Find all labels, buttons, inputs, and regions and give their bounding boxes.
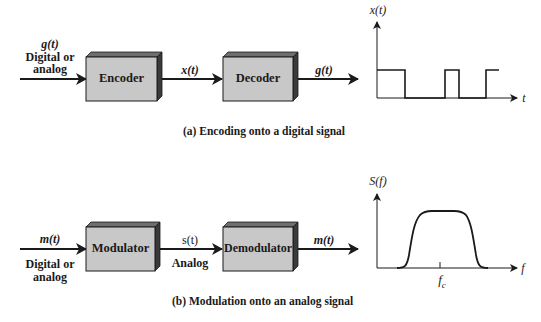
input-signal-label-b: m(t) xyxy=(30,233,70,246)
caption-a: (a) Encoding onto a digital signal xyxy=(183,125,345,137)
output-signal-label-a: g(t) xyxy=(304,64,344,77)
spectrum-plot xyxy=(377,194,517,268)
decoder-block: Decoder xyxy=(223,72,293,85)
plot-b-ylabel: S(f) xyxy=(363,175,393,188)
encoder-block: Encoder xyxy=(86,72,157,85)
spectrum-curve xyxy=(397,211,488,268)
fc-tick-label-sub: c xyxy=(442,280,446,290)
plot-a-xlabel: t xyxy=(519,92,529,105)
modulator-block: Modulator xyxy=(86,242,155,255)
demodulator-block: Demodulator xyxy=(223,242,293,255)
fc-tick-label: fc xyxy=(432,273,452,292)
plot-a-ylabel: x(t) xyxy=(363,4,393,17)
input-desc-a-line2: analog xyxy=(18,63,82,76)
plot-b-xlabel: f xyxy=(518,262,528,275)
digital-waveform-plot xyxy=(377,22,517,98)
caption-b: (b) Modulation onto an analog signal xyxy=(172,295,353,307)
output-signal-label-b: m(t) xyxy=(304,234,344,247)
mid-desc-b: Analog xyxy=(165,257,215,270)
input-desc-b-line2: analog xyxy=(18,271,82,284)
mid-signal-label-a: x(t) xyxy=(170,64,210,77)
mid-signal-label-b: s(t) xyxy=(165,234,215,247)
digital-waveform xyxy=(377,70,499,98)
